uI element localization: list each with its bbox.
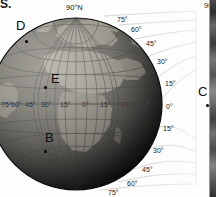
lat-label-75s: 75° xyxy=(108,189,119,196)
lat-label-15s: 15° xyxy=(163,125,174,132)
lon-label-30w: 30° xyxy=(41,101,52,108)
point-marker-e xyxy=(44,86,47,89)
point-label-b: B xyxy=(45,131,54,144)
lat-label-30n: 30° xyxy=(157,58,168,65)
point-marker-d xyxy=(25,40,28,43)
lat-label-75n: 75° xyxy=(117,16,128,23)
lon-label-30e: 30° xyxy=(120,101,131,108)
lat-label-60n: 60° xyxy=(131,26,142,33)
lon-label-60w: 60° xyxy=(11,101,22,108)
lon-label-15w: 15° xyxy=(60,101,71,108)
lat-label-15n: 15° xyxy=(165,80,176,87)
lat-label-0: 0° xyxy=(166,103,173,110)
cropped-text-fragment-left: S. xyxy=(0,0,11,10)
lat-label-45n: 45° xyxy=(146,40,157,47)
lon-label-45e: 45° xyxy=(139,101,150,108)
point-label-c: C xyxy=(198,85,207,98)
globe-figure: 90°N 75° 60° 45° 30° 15° 0° 15° 30° 45° … xyxy=(0,0,216,197)
point-label-e: E xyxy=(51,72,60,85)
lon-label-45w: 45° xyxy=(25,101,36,108)
point-label-d: D xyxy=(16,19,25,32)
north-pole-label: 90°N xyxy=(66,4,83,12)
adjacent-figure-strip xyxy=(210,0,216,197)
lon-label-75w: 75° xyxy=(1,101,12,108)
lon-label-15e: 15° xyxy=(100,101,111,108)
point-marker-b xyxy=(44,150,47,153)
lat-label-45s: 45° xyxy=(142,166,153,173)
lon-label-0: 0° xyxy=(82,101,89,108)
lat-label-30s: 30° xyxy=(153,147,164,154)
globe-layer xyxy=(0,0,216,197)
lat-label-60s: 60° xyxy=(127,180,138,187)
